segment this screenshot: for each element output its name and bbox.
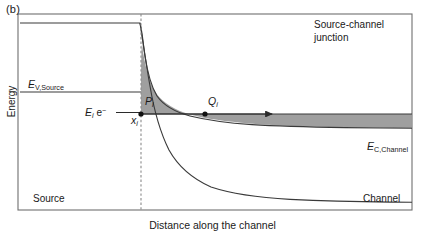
diagram-canvas: Source-channel junction Source Channel E… <box>0 0 425 235</box>
x-axis-title: Distance along the channel <box>0 219 425 231</box>
ev-source-subscript: V,Source <box>35 83 64 92</box>
point-p-symbol: P <box>145 95 152 107</box>
junction-label-line2: junction <box>313 32 348 43</box>
ec-channel-subscript: C,Channel <box>374 145 408 154</box>
point-q-marker <box>202 111 207 116</box>
plot-frame <box>18 14 412 210</box>
y-axis-title: Energy <box>6 72 17 132</box>
ei-charge-sign: − <box>102 106 106 115</box>
point-q-symbol: Q <box>208 95 216 107</box>
point-p-marker <box>138 111 143 116</box>
energy-band-diagram-figure: (b) Energy Distance along the channel <box>0 0 425 235</box>
channel-region-label: Channel <box>363 193 400 204</box>
panel-label: (b) <box>6 3 20 15</box>
source-region-label: Source <box>33 193 65 204</box>
junction-label-line1: Source-channel <box>314 19 384 30</box>
